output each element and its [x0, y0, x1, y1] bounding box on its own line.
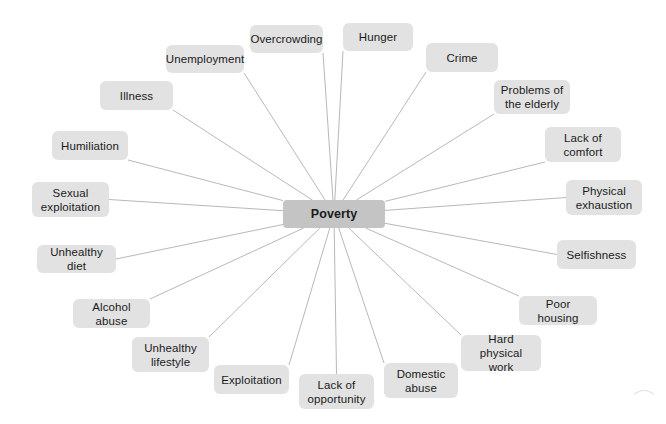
edge-poverty-to-poor-housing	[366, 228, 519, 296]
node-selfishness[interactable]: Selfishness	[557, 240, 636, 269]
node-lack-of-opportunity[interactable]: Lack ofopportunity	[299, 374, 374, 409]
node-crime[interactable]: Crime	[426, 43, 498, 72]
node-humiliation[interactable]: Humiliation	[52, 131, 128, 160]
edge-poverty-to-overcrowding	[323, 53, 333, 200]
edge-poverty-to-unhealthy-lifestyle	[209, 228, 320, 337]
node-problems-of-the-elderly[interactable]: Problems ofthe elderly	[494, 80, 570, 114]
node-exploitation[interactable]: Exploitation	[214, 365, 289, 394]
edge-poverty-to-lack-of-comfort	[385, 162, 545, 201]
node-unhealthy-diet[interactable]: Unhealthy diet	[37, 245, 116, 273]
node-unhealthy-lifestyle[interactable]: Unhealthylifestyle	[132, 337, 209, 372]
node-hunger[interactable]: Hunger	[343, 23, 413, 51]
node-lack-of-comfort[interactable]: Lack ofcomfort	[545, 127, 621, 162]
page-corner-artifact	[630, 390, 658, 418]
node-overcrowding[interactable]: Overcrowding	[250, 25, 323, 53]
edge-poverty-to-alcohol-abuse	[150, 228, 304, 299]
node-unemployment[interactable]: Unemployment	[166, 45, 244, 73]
node-domestic-abuse[interactable]: Domesticabuse	[384, 363, 458, 398]
node-illness[interactable]: Illness	[100, 81, 173, 110]
edge-poverty-to-crime	[343, 72, 426, 200]
edge-poverty-to-hunger	[335, 51, 343, 200]
edge-poverty-to-domestic-abuse	[339, 228, 384, 363]
edge-poverty-to-problems-of-the-elderly	[356, 114, 494, 200]
edge-poverty-to-unhealthy-diet	[116, 225, 283, 260]
edge-poverty-to-selfishness	[385, 223, 557, 254]
edge-poverty-to-exploitation	[289, 228, 330, 365]
node-physical-exhaustion[interactable]: Physicalexhaustion	[566, 180, 642, 215]
node-poor-housing[interactable]: Poor housing	[519, 296, 597, 325]
edge-poverty-to-hard-physical-work	[349, 228, 461, 335]
mind-map-canvas: PovertyOvercrowdingHungerUnemploymentCri…	[0, 0, 666, 424]
node-alcohol-abuse[interactable]: Alcohol abuse	[73, 299, 150, 328]
center-node-poverty[interactable]: Poverty	[283, 200, 385, 228]
edge-poverty-to-physical-exhaustion	[385, 198, 566, 211]
edge-poverty-to-sexual-exploitation	[109, 200, 283, 211]
edge-poverty-to-lack-of-opportunity	[334, 228, 336, 374]
node-hard-physical-work[interactable]: Hard physicalwork	[461, 335, 541, 371]
edge-poverty-to-unemployment	[244, 73, 325, 200]
edge-poverty-to-illness	[173, 110, 312, 200]
node-sexual-exploitation[interactable]: Sexualexploitation	[32, 182, 109, 217]
